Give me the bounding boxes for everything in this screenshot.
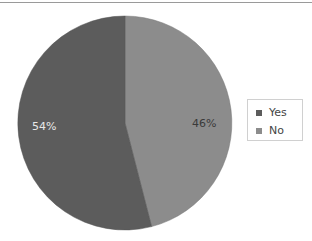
legend-label-yes: Yes: [269, 106, 287, 119]
legend-item-no: No: [256, 124, 284, 137]
legend-label-no: No: [269, 124, 284, 137]
legend-item-yes: Yes: [256, 106, 287, 119]
slice-label-no: 46%: [192, 117, 216, 130]
legend: Yes No: [247, 99, 303, 141]
slice-label-yes: 54%: [32, 120, 56, 133]
legend-swatch-yes: [256, 110, 262, 116]
legend-swatch-no: [256, 128, 262, 134]
